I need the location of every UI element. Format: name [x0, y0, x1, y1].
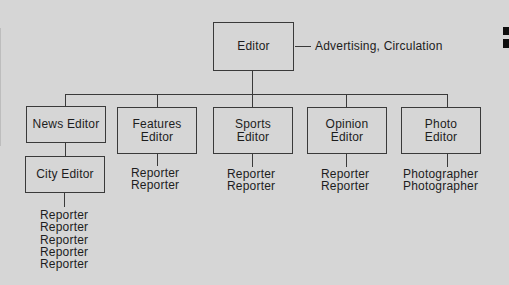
- staff-list-sports: Reporter Reporter: [227, 168, 275, 193]
- node-photo-editor: Photo Editor: [401, 107, 481, 154]
- node-city-editor-label: City Editor: [36, 168, 94, 181]
- staff-member: Reporter: [321, 180, 369, 192]
- page-edge-mark: [503, 39, 509, 48]
- connector-photo-staff: [447, 154, 448, 167]
- connector-sports-staff: [252, 154, 253, 167]
- node-photo-editor-label: Photo Editor: [425, 118, 458, 144]
- connector-editor-note: [295, 46, 311, 47]
- scan-edge-line: [0, 28, 1, 146]
- staff-member: Reporter: [40, 221, 88, 233]
- connector-drop-news: [65, 94, 66, 106]
- connector-drop-features: [157, 94, 158, 107]
- connector-features-staff: [157, 154, 158, 166]
- node-features-editor: Features Editor: [117, 107, 197, 154]
- connector-news-city: [65, 143, 66, 156]
- node-news-editor: News Editor: [26, 106, 106, 143]
- org-chart: Editor Advertising, Circulation News Edi…: [0, 0, 509, 285]
- node-sports-editor: Sports Editor: [213, 107, 293, 154]
- node-editor-label: Editor: [237, 40, 270, 53]
- node-news-editor-label: News Editor: [33, 118, 100, 131]
- connector-editor-down: [252, 71, 253, 94]
- staff-list-features: Reporter Reporter: [131, 167, 179, 192]
- staff-member: Reporter: [131, 179, 179, 191]
- connector-drop-opinion: [346, 94, 347, 107]
- connector-drop-photo: [447, 94, 448, 107]
- node-opinion-editor-label: Opinion Editor: [326, 118, 369, 144]
- node-sports-editor-label: Sports Editor: [235, 118, 271, 144]
- connector-city-staff: [64, 193, 65, 207]
- staff-list-photo: Photographer Photographer: [403, 168, 478, 193]
- staff-member: Reporter: [40, 258, 88, 270]
- node-features-editor-label: Features Editor: [133, 118, 182, 144]
- staff-list-city: Reporter Reporter Reporter Reporter Repo…: [40, 209, 88, 270]
- connector-drop-sports: [252, 94, 253, 107]
- staff-member: Photographer: [403, 180, 478, 192]
- connector-row2-span: [65, 94, 448, 95]
- staff-member: Reporter: [227, 180, 275, 192]
- staff-list-opinion: Reporter Reporter: [321, 168, 369, 193]
- node-opinion-editor: Opinion Editor: [307, 107, 387, 154]
- connector-opinion-staff: [346, 154, 347, 167]
- node-editor: Editor: [213, 22, 294, 71]
- node-city-editor: City Editor: [25, 156, 105, 193]
- editor-side-note: Advertising, Circulation: [315, 40, 443, 53]
- page-edge-mark: [503, 27, 509, 35]
